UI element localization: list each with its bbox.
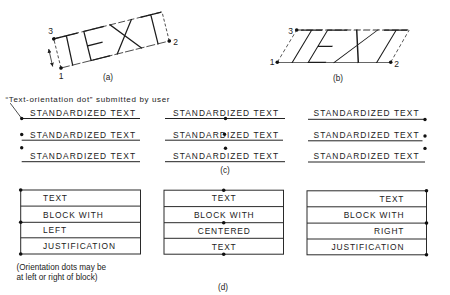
orientation-dot [224, 147, 227, 150]
right-side-dashed [162, 12, 169, 41]
orientation-dot [222, 221, 226, 225]
figure-a: TEXT 3 1 2 (a) [48, 10, 178, 82]
text-height-arrow-icon [49, 50, 53, 67]
block-line: JUSTIFICATION [332, 242, 405, 252]
block-right-justified: TEXT BLOCK WITH RIGHT JUSTIFICATION [307, 189, 428, 257]
block-line: TEXT [379, 194, 404, 204]
block-line: RIGHT [374, 226, 404, 236]
point-2-dot [167, 39, 171, 43]
figure-b-label: (b) [333, 74, 343, 83]
point-1-dot [276, 61, 280, 65]
left-side-dashed [54, 39, 61, 68]
orientation-dot [423, 118, 426, 121]
orientation-dot [223, 133, 226, 136]
block-line: LEFT [43, 225, 67, 235]
column-left-justified: STANDARDIZED TEXT STANDARDIZED TEXT STAN… [20, 108, 140, 162]
column-right-justified: STANDARDIZED TEXT STANDARDIZED TEXT STAN… [308, 108, 427, 162]
point-3-dot [295, 28, 299, 32]
figure-b: TEXT 3 1 2 (b) [270, 26, 410, 84]
orientation-dot [423, 134, 426, 137]
orientation-note-line-2: at left or right of block) [17, 273, 98, 282]
point-3-label: 3 [288, 26, 293, 36]
orientation-dot [224, 117, 227, 120]
orientation-dot [20, 146, 23, 149]
row-text: STANDARDIZED TEXT [30, 130, 135, 140]
row-text: STANDARDIZED TEXT [314, 130, 419, 140]
figure-a-label: (a) [103, 73, 113, 82]
orientation-note-line-1: (Orientation dots may be [17, 263, 107, 272]
point-2-dot [389, 61, 393, 65]
rotated-text-frame: TEXT [52, 10, 172, 70]
orientation-dot [425, 253, 429, 257]
orientation-dot [19, 221, 23, 225]
letter-x-glyph [334, 30, 377, 62]
block-line: CENTERED [198, 226, 251, 236]
point-3-label: 3 [48, 26, 53, 36]
column-center-justified: STANDARDIZED TEXT STANDARDIZED TEXT STAN… [165, 108, 285, 162]
orientation-dot [20, 117, 23, 120]
block-line: BLOCK WITH [43, 210, 104, 220]
point-2-label: 2 [173, 37, 178, 47]
word-glyphs [282, 30, 406, 62]
orientation-dot-caption: “Text-orientation dot” submitted by user [6, 95, 170, 104]
orientation-dot [425, 221, 429, 225]
block-line: TEXT [212, 242, 237, 252]
row-text: STANDARDIZED TEXT [173, 151, 278, 161]
slanted-text-frame: TEXT [277, 30, 410, 62]
block-left-justified: TEXT BLOCK WITH LEFT JUSTIFICATION [19, 188, 141, 256]
figure-c: “Text-orientation dot” submitted by user… [6, 95, 427, 176]
row-text: STANDARDIZED TEXT [314, 108, 419, 118]
base-line [61, 41, 169, 68]
point-3-dot [52, 37, 56, 41]
orientation-dot [222, 188, 226, 192]
row-text: STANDARDIZED TEXT [30, 151, 135, 161]
letter-e-glyph [84, 27, 111, 61]
block-center-justified: TEXT BLOCK WITH CENTERED TEXT [164, 188, 284, 256]
row-text: STANDARDIZED TEXT [30, 108, 135, 118]
orientation-dot [423, 147, 426, 150]
point-2-label: 2 [394, 59, 399, 69]
figure-canvas: TEXT 3 1 2 (a) TEXT [0, 0, 450, 295]
block-line: JUSTIFICATION [43, 241, 116, 251]
left-side-dashed [277, 30, 296, 62]
block-line: BLOCK WITH [194, 210, 255, 220]
block-line: TEXT [43, 193, 68, 203]
letter-t-glyph [141, 12, 168, 46]
block-line: BLOCK WITH [344, 210, 405, 220]
orientation-dot [19, 252, 23, 256]
orientation-dot [20, 133, 23, 136]
caption-leader-line [11, 104, 22, 118]
figure-d: TEXT BLOCK WITH LEFT JUSTIFICATION TEXT … [17, 188, 429, 292]
orientation-dot [19, 188, 23, 192]
orientation-dot [222, 252, 226, 256]
point-1-label: 1 [270, 57, 275, 67]
figure-d-label: (d) [218, 283, 228, 292]
row-text: STANDARDIZED TEXT [173, 108, 278, 118]
row-text: STANDARDIZED TEXT [314, 151, 419, 161]
word-glyphs [56, 12, 168, 67]
orientation-dot [425, 189, 429, 193]
point-1-label: 1 [59, 71, 64, 81]
text-orientation-figure: TEXT 3 1 2 (a) TEXT [0, 0, 450, 295]
figure-c-label: (c) [220, 166, 230, 175]
block-line: TEXT [212, 193, 237, 203]
